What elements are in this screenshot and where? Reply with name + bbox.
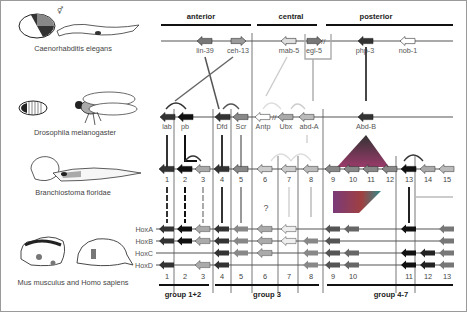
vertebrate-paralog-7: 7 xyxy=(287,272,291,281)
amphioxus-gene-7: 7 xyxy=(287,175,291,184)
gene-mab-5: mab-5 xyxy=(279,46,299,55)
unknown-ortholog-mark: ? xyxy=(263,203,268,213)
gene-ceh-13: ceh-13 xyxy=(227,46,249,55)
gene-lab: lab xyxy=(162,122,172,131)
amphioxus-orthology-lines: ? xyxy=(167,187,453,223)
amphioxus-gene-11: 11 xyxy=(367,175,375,184)
vertebrate-clusters: HoxA HoxB HoxC xyxy=(135,225,454,282)
amphioxus-gene-4: 4 xyxy=(220,175,224,184)
group-1-2-label: group 1+2 xyxy=(165,290,202,299)
gene-php-3: php-3 xyxy=(356,46,374,55)
species-label-drosophila: Drosophila melanogaster xyxy=(34,128,117,137)
cluster-label-HoxD: HoxD xyxy=(135,261,153,270)
gene-Scr: Scr xyxy=(236,122,247,131)
gene-Ubx: Ubx xyxy=(280,122,293,131)
amphioxus-gene-6: 6 xyxy=(263,175,267,184)
vertebrate-paralog-9: 9 xyxy=(331,272,335,281)
region-central-label: central xyxy=(279,12,304,21)
vertebrate-paralog-6: 6 xyxy=(263,272,267,281)
posterior-expansion-trapezoid xyxy=(333,191,381,213)
amphioxus-gene-15: 15 xyxy=(443,175,451,184)
gene-abd-A: abd-A xyxy=(299,122,318,131)
cluster-label-HoxC: HoxC xyxy=(135,249,153,258)
amphioxus-gene-12: 12 xyxy=(386,175,394,184)
drosophila-cluster: // lab pb Dfd Scr Antp Ubx abd-A Abd-B xyxy=(160,103,453,131)
vertebrate-paralog-2: 2 xyxy=(183,272,187,281)
amphioxus-gene-14: 14 xyxy=(424,175,432,184)
abd-b-expansion-triangle xyxy=(337,135,389,167)
paralog-groups: group 1+2 group 3 group 4-7 xyxy=(159,285,453,299)
group-3-label: group 3 xyxy=(253,290,281,299)
amphioxus-gene-9: 9 xyxy=(331,175,335,184)
vertebrate-paralog-8: 8 xyxy=(309,272,313,281)
group-4-7-label: group 4-7 xyxy=(374,290,409,299)
region-anterior-label: anterior xyxy=(187,12,215,21)
vertebrate-paralog-4: 4 xyxy=(220,272,224,281)
vertebrate-paralog-13: 13 xyxy=(443,272,451,281)
vertebrate-paralog-3: 3 xyxy=(201,272,205,281)
species-label-mus-homo: Mus musculus and Homo sapiens xyxy=(18,278,129,287)
amphioxus-cluster: 1 2 3 4 5 6 7 8 9 10 11 12 13 14 15 xyxy=(159,165,454,185)
gene-lin-39: lin-39 xyxy=(196,46,214,55)
gene-egl-5: egl-5 xyxy=(306,46,322,55)
region-posterior-label: posterior xyxy=(360,12,393,21)
amphioxus-gene-5: 5 xyxy=(239,175,243,184)
gene-pb: pb xyxy=(181,122,189,131)
svg-text://: // xyxy=(272,113,277,122)
amphioxus-gene-8: 8 xyxy=(309,175,313,184)
species-label-celegans: Caenorhabditis elegans xyxy=(34,44,112,53)
vertebrate-paralog-11: 11 xyxy=(405,272,413,281)
amphioxus-gene-3: 3 xyxy=(201,175,205,184)
svg-text:⚥: ⚥ xyxy=(57,6,63,14)
amphioxus-gene-1: 1 xyxy=(165,175,169,184)
amphioxus-gene-2: 2 xyxy=(183,175,187,184)
amphioxus-gene-13: 13 xyxy=(405,175,413,184)
gene-nob-1: nob-1 xyxy=(399,46,417,55)
drosophila-orthology-lines xyxy=(167,135,423,167)
amphioxus-gene-10: 10 xyxy=(349,175,357,184)
celegans-illustration: ⚥ Caenorhabditis elegans xyxy=(19,6,139,53)
cluster-label-HoxB: HoxB xyxy=(135,237,153,246)
mouse-human-illustration: Mus musculus and Homo sapiens xyxy=(18,237,133,287)
vertebrate-paralog-1: 1 xyxy=(165,272,169,281)
celegans-cluster: // lin-39 ceh-13 mab-5 egl-5 php-3 nob-1 xyxy=(161,34,453,59)
gene-Abd-B: Abd-B xyxy=(356,122,376,131)
hox-diagram: anterior central posterior ⚥ Caenorhabdi… xyxy=(0,0,467,312)
gene-Dfd: Dfd xyxy=(216,122,227,131)
cluster-label-HoxA: HoxA xyxy=(135,225,153,234)
branchiostoma-illustration: Branchiostoma floridae xyxy=(31,157,141,197)
species-label-branchiostoma: Branchiostoma floridae xyxy=(35,188,111,197)
vertebrate-paralog-10: 10 xyxy=(349,272,357,281)
celegans-orthology-lines xyxy=(175,47,366,109)
gene-Antp: Antp xyxy=(256,122,271,131)
drosophila-illustration: Drosophila melanogaster xyxy=(19,92,137,137)
vertebrate-paralog-12: 12 xyxy=(424,272,432,281)
vertebrate-paralog-5: 5 xyxy=(239,272,243,281)
region-headers: anterior central posterior xyxy=(161,12,453,25)
